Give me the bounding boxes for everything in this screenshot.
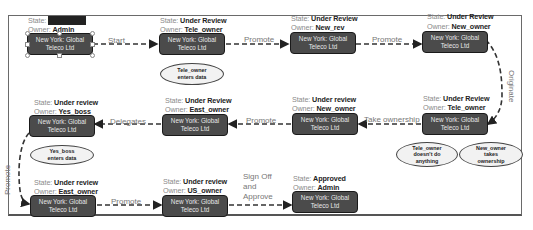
edge-label-take-ownership: Take ownership (364, 115, 420, 124)
note-text: Yes_boss (31, 148, 93, 155)
resize-handle[interactable] (90, 31, 95, 36)
node-11-text: New York: Global (293, 194, 357, 202)
note-tele-enters-data[interactable]: Tele_owner enters data (160, 63, 224, 85)
edge-label-promote: Promote (372, 35, 402, 44)
node-6-state: State: Under review (292, 95, 356, 104)
node-7-text: Teleco Ltd (163, 125, 227, 133)
note-text: New_owner (460, 145, 522, 152)
node-9-text: Teleco Ltd (31, 206, 95, 214)
node-5-text: Teleco Ltd (423, 124, 487, 132)
note-text: anything (397, 158, 457, 165)
node-7-box[interactable]: New York: Global Teleco Ltd (162, 114, 228, 136)
node-2-box[interactable]: New York: Global Teleco Ltd (159, 33, 225, 55)
node-1-text: New York: Global (28, 36, 92, 44)
node-10-text: New York: Global (163, 198, 227, 206)
edge-label-delegates: Delegates (110, 117, 146, 126)
note-yes-boss-enters-data[interactable]: Yes_boss enters data (30, 145, 94, 165)
edge-label-promote: Promote (244, 35, 274, 44)
node-4-text: New York: Global (423, 34, 487, 42)
edge-label-line: Approve (243, 192, 273, 202)
node-4-text: Teleco Ltd (423, 42, 487, 50)
node-3-box[interactable]: New York: Global Teleco Ltd (290, 32, 356, 54)
resize-handle[interactable] (90, 42, 95, 47)
node-2-text: New York: Global (160, 36, 224, 44)
node-6-text: New York: Global (293, 116, 357, 124)
edge-label-sign-off: Sign Off and Approve (243, 172, 273, 202)
node-8-text: Teleco Ltd (30, 126, 94, 134)
node-1-state: State: Not Started (28, 16, 86, 25)
node-10-state: State: Under review (163, 177, 227, 186)
resize-handle[interactable] (25, 42, 30, 47)
node-9-text: New York: Global (31, 198, 95, 206)
node-11-state: State: Approved (293, 174, 346, 183)
node-9-state: State: Under review (34, 178, 98, 187)
node-3-text: New York: Global (291, 35, 355, 43)
edge-label-start: Start (108, 36, 125, 45)
node-11-box[interactable]: New York: Global Teleco Ltd (292, 191, 358, 213)
edge-label-promote: Promote (111, 197, 141, 206)
node-4-box[interactable]: New York: Global Teleco Ltd (422, 31, 488, 53)
node-3-state: State: Under Review (291, 14, 357, 23)
node-10-box[interactable]: New York: Global Teleco Ltd (162, 195, 228, 217)
node-1-text: Teleco Ltd (28, 44, 92, 52)
note-tele-owner-nothing[interactable]: Tele_owner doesn't do anything (396, 142, 458, 167)
node-10-text: Teleco Ltd (163, 206, 227, 214)
edge-label-promote: Promote (246, 116, 276, 125)
node-7-state: State: Under Review (165, 96, 231, 105)
edge-label-promote: Promote (3, 165, 12, 195)
node-4-owner: Owner: New_owner (427, 22, 491, 31)
node-6-box[interactable]: New York: Global Teleco Ltd (292, 113, 358, 135)
resize-handle[interactable] (57, 31, 62, 36)
note-text: doesn't do (397, 151, 457, 158)
resize-handle[interactable] (90, 53, 95, 58)
resize-handle[interactable] (25, 31, 30, 36)
node-8-text: New York: Global (30, 118, 94, 126)
node-2-text: Teleco Ltd (160, 44, 224, 52)
node-8-box[interactable]: New York: Global Teleco Ltd (29, 115, 95, 137)
node-2-state: State: Under Review (160, 16, 226, 25)
node-10-owner: Owner: US_owner (163, 186, 222, 195)
node-5-text: New York: Global (423, 116, 487, 124)
node-5-owner: Owner: Tele_owner (423, 103, 486, 112)
note-text: enters data (161, 74, 223, 81)
node-5-state: State: Under Review (423, 94, 489, 103)
note-text: enters data (31, 155, 93, 162)
edge-label-line: and (243, 182, 273, 192)
node-11-text: Teleco Ltd (293, 202, 357, 210)
edge-label-line: Sign Off (243, 172, 273, 182)
node-9-box[interactable]: New York: Global Teleco Ltd (30, 195, 96, 217)
note-new-owner-takes[interactable]: New_owner takes ownership (459, 142, 523, 167)
edge-label-originate: Originate (507, 70, 516, 102)
resize-handle[interactable] (25, 53, 30, 58)
note-text: Tele_owner (397, 145, 457, 152)
node-7-owner: Owner: East_owner (165, 105, 229, 114)
note-text: ownership (460, 158, 522, 165)
node-8-state: State: Under review (34, 98, 98, 107)
note-text: takes (460, 151, 522, 158)
node-6-text: Teleco Ltd (293, 124, 357, 132)
note-text: Tele_owner (161, 67, 223, 74)
node-7-text: New York: Global (163, 117, 227, 125)
node-5-box[interactable]: New York: Global Teleco Ltd (422, 113, 488, 135)
node-3-owner: Owner: New_rev (291, 23, 344, 32)
resize-handle[interactable] (57, 53, 62, 58)
node-6-owner: Owner: New_owner (292, 104, 356, 113)
node-1-box[interactable]: New York: Global Teleco Ltd (27, 33, 93, 55)
node-3-text: Teleco Ltd (291, 43, 355, 51)
node-4-state: State: Under Review (427, 12, 493, 21)
